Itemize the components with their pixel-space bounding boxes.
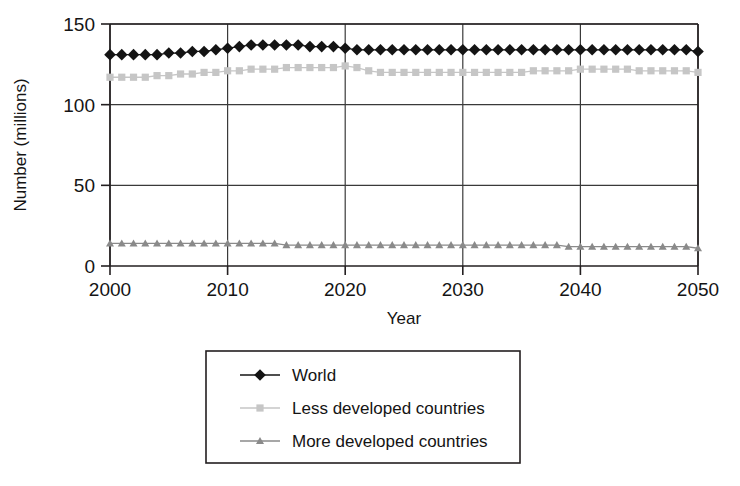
data-point-diamond: [151, 49, 163, 61]
data-point-square: [659, 67, 666, 74]
data-point-square: [306, 64, 313, 71]
data-point-square: [624, 66, 631, 73]
data-point-diamond: [528, 44, 540, 56]
data-point-diamond: [116, 49, 128, 61]
data-point-square: [330, 64, 337, 71]
chart-container: 050100150 200020102020203020402050 Numbe…: [0, 0, 740, 486]
data-point-square: [436, 69, 443, 76]
data-point-square: [118, 74, 125, 81]
data-point-square: [671, 67, 678, 74]
data-point-diamond: [669, 44, 681, 56]
data-point-diamond: [410, 44, 422, 56]
y-tick-label: 50: [74, 175, 95, 196]
data-point-square: [612, 66, 619, 73]
data-point-diamond: [363, 44, 375, 56]
data-point-diamond: [492, 44, 504, 56]
data-point-square: [224, 67, 231, 74]
data-point-diamond: [457, 44, 469, 56]
data-point-square: [353, 64, 360, 71]
data-point-square: [471, 69, 478, 76]
data-point-diamond: [163, 47, 175, 59]
data-point-diamond: [645, 44, 657, 56]
data-point-square: [295, 64, 302, 71]
data-point-diamond: [504, 44, 516, 56]
data-point-diamond: [445, 44, 457, 56]
data-point-square: [400, 69, 407, 76]
y-tick-label: 150: [63, 14, 95, 35]
data-point-square: [542, 67, 549, 74]
data-point-square: [424, 69, 431, 76]
data-point-square: [142, 74, 149, 81]
data-point-diamond: [657, 44, 669, 56]
x-tick-label: 2010: [206, 279, 248, 300]
data-point-square: [506, 69, 513, 76]
data-point-diamond: [257, 39, 269, 51]
data-point-diamond: [198, 46, 210, 58]
data-point-diamond: [633, 44, 645, 56]
x-tick-label: 2040: [559, 279, 601, 300]
data-point-square: [553, 67, 560, 74]
data-point-square: [200, 69, 207, 76]
legend-label: World: [292, 366, 336, 385]
data-point-square: [694, 69, 701, 76]
data-point-diamond: [422, 44, 434, 56]
series-less-developed-countries: [106, 62, 701, 80]
y-axis-ticks: 050100150: [63, 14, 110, 277]
x-tick-label: 2030: [442, 279, 484, 300]
axes-group: [110, 24, 698, 266]
data-point-square: [377, 69, 384, 76]
data-point-square: [236, 67, 243, 74]
data-point-diamond: [281, 39, 293, 51]
data-point-diamond: [210, 44, 222, 56]
data-point-diamond: [680, 44, 692, 56]
data-point-square: [530, 67, 537, 74]
data-point-square: [589, 66, 596, 73]
data-point-diamond: [222, 42, 234, 54]
data-point-diamond: [245, 39, 257, 51]
series-more-developed-countries: [106, 239, 702, 251]
data-point-square: [412, 69, 419, 76]
y-axis-title: Number (millions): [11, 78, 30, 211]
data-point-square: [256, 404, 263, 411]
data-point-diamond: [575, 44, 587, 56]
data-point-diamond: [386, 44, 398, 56]
data-point-diamond: [516, 44, 528, 56]
gridlines-group: [110, 24, 698, 266]
data-point-diamond: [316, 41, 328, 53]
data-point-square: [271, 66, 278, 73]
data-point-diamond: [586, 44, 598, 56]
data-point-square: [153, 72, 160, 79]
data-point-diamond: [622, 44, 634, 56]
data-point-diamond: [481, 44, 493, 56]
data-point-square: [565, 67, 572, 74]
data-point-square: [342, 62, 349, 69]
data-point-diamond: [128, 49, 140, 61]
data-point-diamond: [398, 44, 410, 56]
data-point-square: [130, 74, 137, 81]
data-point-square: [189, 70, 196, 77]
series-world: [104, 39, 704, 60]
y-tick-label: 0: [84, 256, 95, 277]
data-point-square: [636, 67, 643, 74]
data-point-diamond: [104, 49, 116, 61]
data-point-square: [177, 70, 184, 77]
data-point-square: [365, 67, 372, 74]
data-point-square: [483, 69, 490, 76]
data-point-diamond: [375, 44, 387, 56]
x-tick-label: 2020: [324, 279, 366, 300]
data-point-diamond: [339, 42, 351, 54]
x-tick-label: 2000: [89, 279, 131, 300]
data-point-diamond: [139, 49, 151, 61]
data-point-square: [283, 64, 290, 71]
x-axis-ticks: 200020102020203020402050: [89, 266, 719, 300]
data-point-square: [106, 74, 113, 81]
data-point-square: [318, 64, 325, 71]
data-point-square: [459, 69, 466, 76]
data-point-diamond: [610, 44, 622, 56]
data-point-square: [165, 72, 172, 79]
data-point-diamond: [304, 41, 316, 53]
data-point-diamond: [292, 39, 304, 51]
line-chart: 050100150 200020102020203020402050 Numbe…: [0, 0, 740, 486]
data-point-diamond: [539, 44, 551, 56]
y-tick-label: 100: [63, 95, 95, 116]
